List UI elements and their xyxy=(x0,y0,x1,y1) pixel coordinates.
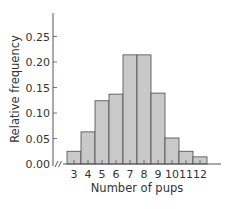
bar-5 xyxy=(95,101,109,164)
bar-7 xyxy=(123,55,137,164)
x-axis-tick-labels: 3456789101112 xyxy=(71,168,208,181)
x-tick-label: 10 xyxy=(165,168,179,181)
bar-8 xyxy=(137,55,151,164)
x-tick-label: 7 xyxy=(127,168,134,181)
x-axis-label: Number of pups xyxy=(91,181,183,195)
bars-group xyxy=(67,55,207,164)
x-tick-label: 12 xyxy=(193,168,207,181)
x-tick-label: 5 xyxy=(99,168,106,181)
bar-6 xyxy=(109,94,123,164)
y-tick-label: 0.05 xyxy=(26,133,51,146)
y-tick-label: 0.10 xyxy=(26,107,51,120)
x-tick-label: 9 xyxy=(155,168,162,181)
x-tick-label: 8 xyxy=(141,168,148,181)
y-tick-label: 0.20 xyxy=(26,56,51,69)
bar-9 xyxy=(151,93,165,164)
y-tick-label: 0.15 xyxy=(26,82,51,95)
x-tick-label: 11 xyxy=(179,168,193,181)
bar-4 xyxy=(81,132,95,164)
y-tick-label: 0.25 xyxy=(26,31,51,44)
y-tick-label: 0.00 xyxy=(26,158,51,171)
x-tick-label: 6 xyxy=(113,168,120,181)
y-axis-ticks: 0.000.050.100.150.200.25 xyxy=(26,31,58,172)
x-tick-label: 3 xyxy=(71,168,78,181)
histogram-chart: 0.000.050.100.150.200.25 3456789101112 N… xyxy=(0,0,231,209)
axis-break-icon xyxy=(55,161,62,167)
x-tick-label: 4 xyxy=(85,168,92,181)
y-axis-label: Relative frequency xyxy=(8,35,22,143)
